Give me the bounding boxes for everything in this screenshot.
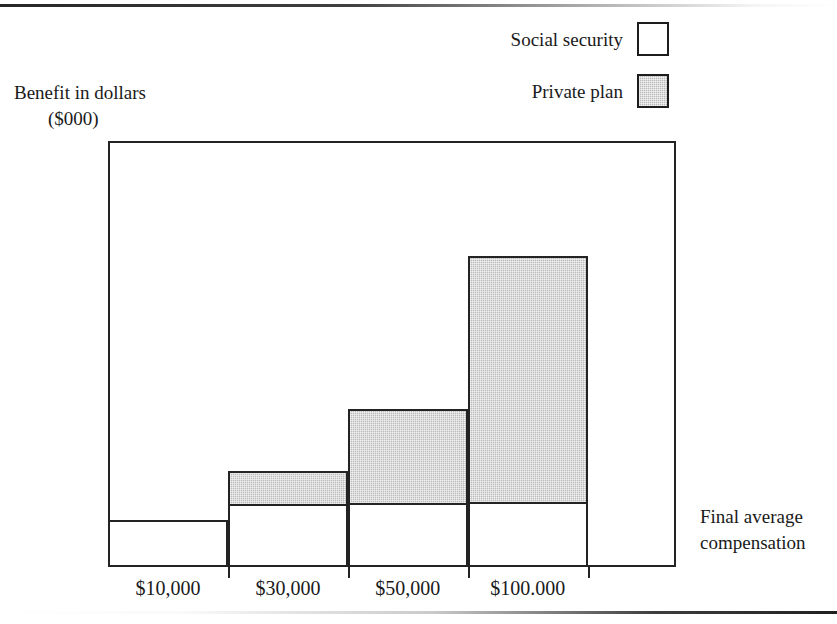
x-axis-tick-mark	[348, 567, 351, 578]
x-axis-title: Final average compensation	[700, 504, 806, 555]
x-axis-label-2: $30,000	[255, 578, 320, 598]
bar-segment-private-plan	[348, 409, 468, 505]
legend-label-private-plan: Private plan	[532, 82, 623, 101]
x-axis-tick-mark	[588, 567, 591, 578]
white-square-swatch-icon	[637, 22, 669, 56]
y-axis-title-line1: Benefit in dollars	[14, 82, 146, 103]
bar-segment-social-security	[108, 520, 228, 567]
legend-item-social-security: Social security	[511, 22, 669, 56]
bar-segment-social-security	[468, 501, 588, 567]
gray-square-swatch-icon	[637, 74, 669, 108]
x-axis-tick-mark	[228, 567, 231, 578]
legend-item-private-plan: Private plan	[511, 74, 669, 108]
x-axis-label-3: $50,000	[375, 578, 440, 598]
bar-group	[108, 141, 228, 567]
x-axis-label-4: $100.000	[490, 578, 565, 598]
page-rule-bottom	[0, 611, 837, 614]
y-axis-title-line2: ($000)	[14, 106, 146, 132]
bar-group	[228, 141, 348, 567]
x-axis-title-line2: compensation	[700, 532, 806, 553]
legend-label-social-security: Social security	[511, 30, 623, 49]
x-axis-tick-mark	[468, 567, 471, 578]
y-axis-title: Benefit in dollars ($000)	[14, 80, 146, 131]
bars-layer	[108, 141, 676, 567]
bar-group	[468, 141, 588, 567]
bar-segment-private-plan	[468, 256, 588, 504]
chart-legend: Social security Private plan	[511, 22, 669, 108]
bar-segment-social-security	[228, 503, 348, 567]
page-rule-top	[0, 4, 837, 7]
x-axis-label-1: $10,000	[135, 578, 200, 598]
bar-segment-social-security	[348, 502, 468, 567]
bar-segment-private-plan	[228, 471, 348, 505]
bar-group	[348, 141, 468, 567]
x-axis-title-line1: Final average	[700, 506, 803, 527]
